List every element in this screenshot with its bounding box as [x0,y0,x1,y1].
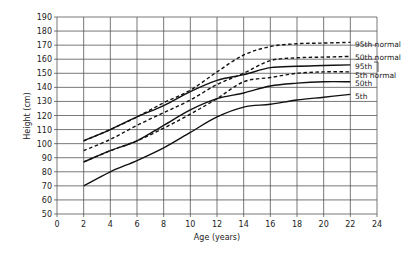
x-tick-label: 6 [134,220,139,229]
x-tick-label: 2 [81,220,86,229]
y-tick-label: 80 [42,168,52,177]
x-axis-label: Age (years) [194,233,240,242]
y-tick-label: 180 [37,27,52,36]
x-tick-label: 8 [161,220,166,229]
y-axis-label: Height (cm) [23,92,32,139]
legend-label-95th-normal: 95th normal [355,40,401,49]
legend-label-50th-normal: 50th normal [355,53,401,62]
y-tick-label: 130 [37,97,52,106]
x-tick-label: 22 [345,220,355,229]
x-tick-label: 20 [319,220,329,229]
x-tick-label: 10 [185,220,195,229]
legend-label-5th: 5th [355,92,368,101]
x-tick-label: 14 [239,220,249,229]
y-tick-label: 150 [37,69,52,78]
y-tick-label: 190 [37,13,52,22]
x-tick-label: 0 [54,220,59,229]
y-tick-label: 170 [37,41,52,50]
y-tick-label: 110 [37,126,52,135]
x-axis-ticks: 024681012141618202224 [54,220,382,229]
x-tick-label: 16 [265,220,275,229]
x-tick-label: 12 [212,220,222,229]
x-tick-label: 18 [292,220,302,229]
y-tick-label: 60 [42,196,52,205]
y-tick-label: 120 [37,112,52,121]
legend-label-50th: 50th [355,79,372,88]
y-tick-label: 70 [42,182,52,191]
growth-chart: 5060708090100110120130140150160170180190… [0,0,412,254]
y-tick-label: 140 [37,83,52,92]
x-tick-label: 4 [108,220,113,229]
legend-labels: 95th normal50th normal95th5th normal50th… [355,40,401,101]
y-tick-label: 90 [42,154,52,163]
legend-label-95th: 95th [355,62,372,71]
x-tick-label: 24 [372,220,382,229]
y-tick-label: 160 [37,55,52,64]
y-tick-label: 100 [37,140,52,149]
y-tick-label: 50 [42,210,52,219]
y-axis-ticks: 5060708090100110120130140150160170180190 [37,13,52,219]
